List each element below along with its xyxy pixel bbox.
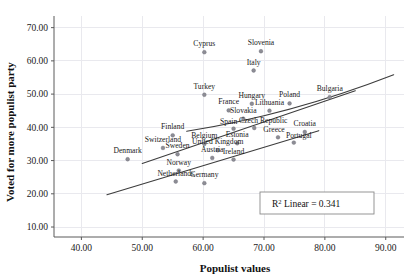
data-point: Slovenia [248, 38, 275, 53]
point-label: Ireland [223, 147, 245, 156]
point-label: Spain [220, 117, 238, 126]
data-point: Denmark [114, 146, 142, 161]
data-point: Portugal [286, 131, 312, 145]
data-point: Spain [220, 117, 238, 131]
point-marker [276, 135, 280, 139]
point-label: Greece [263, 125, 285, 134]
data-point: Netherlands [157, 169, 194, 184]
x-tick-label: 90.00 [375, 243, 397, 253]
point-label: Sweden [166, 141, 190, 150]
point-marker [126, 157, 130, 161]
data-point: Cyprus [193, 39, 215, 54]
x-tick-label: 50.00 [132, 243, 154, 253]
data-point: Germany [190, 170, 218, 185]
point-marker [328, 95, 332, 99]
y-tick-label: 40.00 [27, 123, 49, 133]
point-marker [210, 156, 214, 160]
point-marker [268, 109, 272, 113]
point-label: Norway [167, 158, 192, 167]
chart-canvas: 40.0050.0060.0070.0080.0090.0010.0020.00… [0, 0, 414, 280]
y-tick-label: 20.00 [27, 189, 49, 199]
point-label: Cyprus [193, 39, 215, 48]
y-tick-label: 70.00 [27, 23, 49, 33]
data-point: Italy [247, 58, 261, 73]
scatter-plot-figure: 40.0050.0060.0070.0080.0090.0010.0020.00… [0, 0, 414, 280]
y-tick-label: 60.00 [27, 56, 49, 66]
point-marker [232, 158, 236, 162]
point-marker [202, 181, 206, 185]
r2-label: R2 Linear = 0.341 [272, 198, 340, 210]
point-label: Austria [201, 145, 224, 154]
point-label: Czech Republic [239, 116, 288, 125]
point-label: Netherlands [157, 169, 194, 178]
y-axis-title: Voted for more populist party [4, 62, 16, 202]
point-marker [161, 146, 165, 150]
r2-annotation: R2 Linear = 0.341 [260, 192, 374, 214]
data-point: Lithuania [255, 98, 285, 113]
point-marker [202, 50, 206, 54]
data-points-layer: CyprusSloveniaItalyTurkeyHungaryPolandBu… [114, 38, 344, 185]
x-tick-label: 70.00 [253, 243, 275, 253]
x-axis-title: Populist values [200, 262, 271, 274]
point-label: Germany [190, 170, 218, 179]
point-label: Bulgaria [317, 84, 344, 93]
point-label: Croatia [294, 119, 317, 128]
point-marker [252, 69, 256, 73]
point-label: Turkey [194, 82, 216, 91]
point-label: Portugal [286, 131, 312, 140]
x-tick-label: 80.00 [314, 243, 336, 253]
point-marker [252, 126, 256, 130]
point-label: Denmark [114, 146, 142, 155]
point-marker [174, 180, 178, 184]
point-label: Finland [161, 122, 184, 131]
x-tick-label: 40.00 [71, 243, 93, 253]
point-marker [259, 49, 263, 53]
point-marker [202, 93, 206, 97]
point-marker [288, 102, 292, 106]
y-tick-label: 10.00 [27, 222, 49, 232]
x-tick-label: 60.00 [192, 243, 214, 253]
point-label: Slovenia [248, 38, 275, 47]
point-label: Slovakia [230, 106, 257, 115]
point-marker [292, 141, 296, 145]
y-tick-label: 50.00 [27, 89, 49, 99]
point-label: Lithuania [255, 98, 285, 107]
data-point: Austria [201, 145, 224, 160]
point-marker [176, 152, 180, 156]
data-point: Greece [263, 125, 285, 139]
y-tick-label: 30.00 [27, 156, 49, 166]
point-label: Italy [247, 58, 261, 67]
